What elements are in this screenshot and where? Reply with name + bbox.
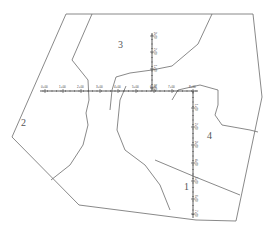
- parcel-label-3: 3: [118, 40, 123, 50]
- station-tick-label: 2+00: [77, 85, 84, 89]
- station-tick-label: 8+00: [189, 85, 196, 89]
- station-axes: 0+001+002+003+004+005+006+007+008+003+00…: [40, 32, 198, 218]
- parcel-label-4: 4: [207, 131, 212, 141]
- parcel-boundary: [12, 14, 262, 221]
- division-line-2-3: [51, 14, 92, 180]
- station-tick-label: 6+00: [194, 195, 198, 202]
- division-line-3-4: [110, 14, 212, 110]
- station-tick-label: 7+00: [194, 210, 198, 217]
- division-lines: [51, 14, 258, 210]
- division-line-4-inner: [172, 85, 258, 132]
- station-tick-label: 2+00: [153, 48, 157, 55]
- station-tick-label: 1+00: [153, 65, 157, 72]
- parcel-label-1: 1: [184, 182, 189, 192]
- station-tick-label: 5+00: [194, 177, 198, 184]
- station-tick-label: 0+00: [153, 84, 157, 91]
- station-tick-label: 3+00: [194, 141, 198, 148]
- division-line-1-3: [117, 86, 170, 210]
- station-tick-label: 1+00: [194, 104, 198, 111]
- station-tick-label: 4+00: [194, 159, 198, 166]
- station-tick-label: 7+00: [168, 85, 175, 89]
- station-tick-label: 3+00: [153, 32, 157, 39]
- station-tick-label: 3+00: [96, 85, 103, 89]
- station-tick-label: 0+00: [41, 85, 48, 89]
- station-tick-label: 4+00: [114, 85, 121, 89]
- station-tick-label: 2+00: [194, 123, 198, 130]
- station-tick-label: 5+00: [132, 85, 139, 89]
- station-tick-label: 1+00: [59, 85, 66, 89]
- parcel-label-2: 2: [21, 118, 26, 128]
- parcel-map: 0+001+002+003+004+005+006+007+008+003+00…: [0, 0, 264, 227]
